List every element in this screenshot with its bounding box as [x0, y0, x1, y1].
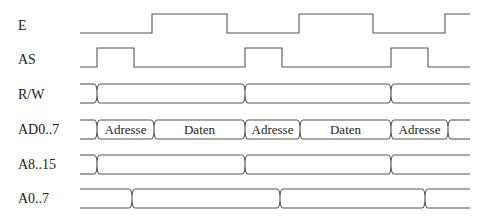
timing-diagram: EASR/WAD0..7AdresseDatenAdresseDatenAdre…	[0, 0, 489, 221]
bus-transition	[129, 189, 135, 208]
bus-cell-label: Adresse	[252, 122, 294, 137]
signal-as: AS	[18, 48, 470, 67]
bus-transition	[445, 120, 451, 139]
bus-transition	[388, 155, 394, 174]
signal-a0-7: A0..7	[18, 189, 470, 208]
bus-transition	[94, 120, 100, 139]
bus-cell-label: Adresse	[399, 122, 441, 137]
bus-transition	[277, 189, 283, 208]
signal-label: E	[18, 18, 27, 33]
signal-ad0-7: AD0..7AdresseDatenAdresseDatenAdresse	[18, 120, 470, 139]
bus-transition	[242, 155, 248, 174]
bus-transition	[422, 189, 428, 208]
waveform	[80, 14, 470, 33]
bus-transition	[242, 84, 248, 103]
bus-transition	[242, 120, 248, 139]
bus-transition	[151, 120, 157, 139]
bus-cell-label: Daten	[330, 122, 362, 137]
bus-transition	[94, 155, 100, 174]
bus-transition	[297, 120, 303, 139]
signal-r-w: R/W	[18, 84, 470, 103]
signal-label: A0..7	[18, 191, 49, 206]
signal-e: E	[18, 14, 470, 33]
waveform	[80, 48, 470, 67]
signal-label: R/W	[18, 87, 45, 102]
signal-label: AS	[18, 52, 36, 67]
signal-label: AD0..7	[18, 122, 59, 137]
bus-cell-label: Adresse	[105, 122, 147, 137]
signal-label: A8..15	[18, 157, 56, 172]
signal-a8-15: A8..15	[18, 155, 470, 174]
bus-transition	[388, 84, 394, 103]
bus-cell-label: Daten	[184, 122, 216, 137]
bus-transition	[94, 84, 100, 103]
bus-transition	[388, 120, 394, 139]
